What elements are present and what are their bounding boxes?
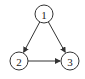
node-label: 1	[41, 9, 47, 21]
graph-diagram: 123	[0, 0, 85, 79]
node-label: 2	[16, 56, 22, 68]
edge-1-to-2	[24, 22, 40, 52]
node-2: 2	[10, 52, 28, 70]
node-1: 1	[35, 5, 53, 23]
node-3: 3	[61, 52, 79, 70]
nodes: 123	[10, 5, 79, 70]
node-label: 3	[67, 56, 73, 68]
edges	[24, 22, 65, 61]
edge-1-to-3	[48, 22, 65, 52]
